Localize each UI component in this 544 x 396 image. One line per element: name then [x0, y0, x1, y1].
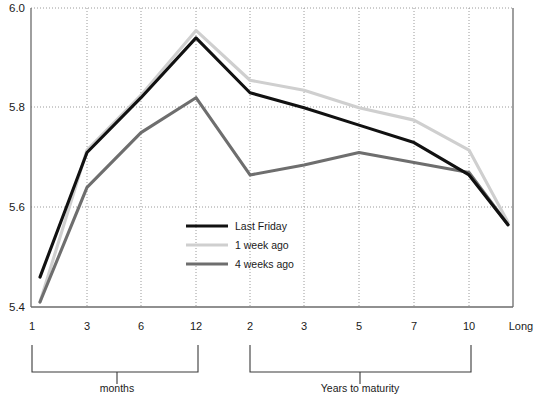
x-tick-label-7y: 7 [411, 320, 417, 332]
x-tick-label-long: Long [509, 320, 533, 332]
x-axis-tick-labels: 1 3 6 12 2 3 5 7 10 Long [29, 320, 533, 332]
y-tick-label: 5.6 [9, 201, 25, 213]
x-tick-label-6m: 6 [138, 320, 144, 332]
years-to-maturity-bracket: Years to maturity [250, 345, 471, 394]
x-tick-label-5y: 5 [356, 320, 362, 332]
y-tick-label: 6.0 [9, 2, 25, 14]
legend-label-1-week-ago: 1 week ago [235, 239, 289, 251]
x-tick-label-3m: 3 [84, 320, 90, 332]
x-tick-label-3y: 3 [301, 320, 307, 332]
chart-canvas: 6.0 5.8 5.6 5.4 Last Friday 1 week ago 4… [0, 0, 544, 396]
y-axis-tick-labels: 6.0 5.8 5.6 5.4 [9, 2, 26, 313]
chart-legend: Last Friday 1 week ago 4 weeks ago [186, 220, 294, 270]
y-tick-label: 5.4 [9, 301, 26, 313]
yield-curve-chart: 6.0 5.8 5.6 5.4 Last Friday 1 week ago 4… [0, 0, 544, 396]
months-bracket-label: months [100, 382, 134, 394]
x-tick-label-1m: 1 [29, 320, 35, 332]
y-tick-label: 5.8 [9, 101, 25, 113]
x-tick-label-10y: 10 [463, 320, 475, 332]
legend-label-last-friday: Last Friday [235, 220, 288, 232]
x-tick-label-2y: 2 [247, 320, 253, 332]
years-to-maturity-bracket-label: Years to maturity [321, 382, 400, 394]
legend-label-4-weeks-ago: 4 weeks ago [235, 258, 294, 270]
months-bracket: months [32, 345, 198, 394]
x-tick-label-12m: 12 [190, 320, 202, 332]
